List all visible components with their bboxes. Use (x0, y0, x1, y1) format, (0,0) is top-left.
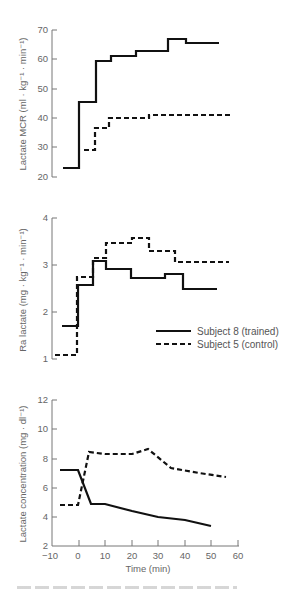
y-axis-title: Lactate concentration (mg · dl⁻¹) (17, 405, 28, 542)
y-tick-label: 12 (37, 394, 48, 405)
y-tick-label: 6 (43, 482, 48, 493)
panel-ra-lactate: 4 3 2 1 Ra lactate (mg · kg⁻¹ · min⁻¹) S… (17, 212, 279, 364)
legend-label-subject-5: Subject 5 (control) (197, 339, 278, 350)
x-axis (52, 540, 239, 546)
y-tick-label: 50 (37, 83, 48, 94)
y-tick-label: 4 (43, 212, 48, 223)
x-tick-label: 50 (206, 550, 217, 561)
y-axis-title: Lactate MCR (ml · kg⁻¹ · min⁻¹) (17, 38, 28, 171)
legend-label-subject-8: Subject 8 (trained) (197, 326, 279, 337)
x-tick-label: 30 (153, 550, 164, 561)
series-subject-8 (62, 261, 217, 326)
x-tick-label: 40 (180, 550, 191, 561)
x-tick-label: 0 (75, 550, 80, 561)
y-tick-label: 70 (37, 24, 48, 35)
series-subject-5 (60, 449, 226, 505)
figure-caption-cropped (17, 586, 237, 589)
y-tick-label: 10 (37, 423, 48, 434)
x-axis-title: Time (min) (125, 563, 170, 574)
y-tick-label: 4 (43, 511, 48, 522)
x-tick-label: 20 (127, 550, 138, 561)
series-subject-5 (84, 115, 232, 150)
x-tick-label: −10 (42, 550, 58, 561)
y-tick-label: 40 (37, 112, 48, 123)
y-tick-label: 60 (37, 53, 48, 64)
series-subject-8 (63, 39, 219, 168)
y-tick-label: 3 (43, 259, 48, 270)
x-tick-label: 10 (100, 550, 111, 561)
panel-lactate-concentration: 12 10 8 6 4 2 −10 0 10 20 30 40 50 60 Ti… (17, 394, 243, 574)
y-tick-label: 1 (43, 353, 48, 364)
figure: 70 60 50 40 30 20 Lactate MCR (ml · kg⁻¹… (0, 0, 289, 591)
y-tick-label: 30 (37, 141, 48, 152)
series-subject-5 (55, 238, 229, 355)
y-tick-label: 20 (37, 171, 48, 182)
y-axis (52, 218, 57, 359)
y-axis (52, 400, 57, 546)
legend: Subject 8 (trained) Subject 5 (control) (156, 326, 279, 350)
x-tick-label: 60 (233, 550, 244, 561)
y-tick-label: 2 (43, 306, 48, 317)
y-axis-title: Ra lactate (mg · kg⁻¹ · min⁻¹) (17, 228, 28, 352)
y-axis (52, 30, 57, 177)
panel-lactate-mcr: 70 60 50 40 30 20 Lactate MCR (ml · kg⁻¹… (17, 24, 232, 182)
y-tick-label: 8 (43, 453, 48, 464)
